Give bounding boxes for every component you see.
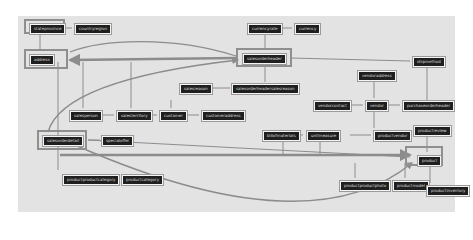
- node-productcategory[interactable]: productcategory: [122, 175, 163, 185]
- node-currencyrate[interactable]: currencyrate: [248, 24, 282, 34]
- node-vendor[interactable]: vendor: [366, 101, 388, 111]
- node-vendorcontact[interactable]: vendorcontact: [314, 101, 351, 111]
- node-purchaseorderheader[interactable]: purchaseorderheader: [403, 101, 454, 111]
- node-unitmeasure[interactable]: unitmeasure: [307, 131, 340, 141]
- node-shipmethod[interactable]: shipmethod: [413, 57, 445, 67]
- node-vendoraddress[interactable]: vendoraddress: [358, 71, 396, 81]
- node-productmodel[interactable]: productmodel: [393, 181, 429, 191]
- node-salesreason[interactable]: salesreason: [180, 84, 212, 94]
- node-address[interactable]: address: [30, 55, 54, 65]
- node-currency[interactable]: currency: [295, 24, 320, 34]
- node-productreview[interactable]: productreview: [414, 126, 451, 136]
- node-salesorderheader[interactable]: salesorderheader: [243, 54, 286, 64]
- node-customeraddress[interactable]: customeraddress: [202, 111, 245, 121]
- node-salesterritory[interactable]: salesterritory: [117, 111, 152, 121]
- node-stateprovince[interactable]: stateprovince: [30, 24, 65, 34]
- node-specialoffer[interactable]: specialoffer: [102, 136, 133, 146]
- node-productproductcategory[interactable]: productproductcategory: [63, 175, 119, 185]
- node-countryregion[interactable]: countryregion: [75, 24, 111, 34]
- node-salesorderheadersalesreason[interactable]: salesorderheadersalesreason: [232, 84, 299, 94]
- node-productproductphoto[interactable]: productproductphoto: [340, 181, 390, 191]
- node-productinventory[interactable]: productinventory: [427, 186, 469, 196]
- node-customer[interactable]: customer: [160, 111, 187, 121]
- node-salesorderdetail[interactable]: salesorderdetail: [43, 136, 83, 146]
- node-billofmaterials[interactable]: billofmaterials: [263, 131, 300, 141]
- node-salesperson[interactable]: salesperson: [70, 111, 102, 121]
- node-product[interactable]: product: [418, 156, 441, 166]
- node-productvendor[interactable]: productvendor: [374, 131, 411, 141]
